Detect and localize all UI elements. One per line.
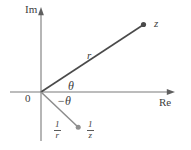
imaginary-axis-label: Im — [25, 4, 37, 15]
point-z-label: z — [154, 18, 158, 29]
origin-label: 0 — [25, 93, 31, 104]
inverse-modulus-fraction: 1 r — [54, 120, 61, 141]
inverse-modulus-denominator: r — [54, 131, 61, 140]
inverse-point-numerator: 1 — [87, 120, 94, 129]
point-one-over-z-marker — [76, 125, 81, 130]
argand-diagram-figure: Im Re 0 z r θ −θ 1 r 1 z — [0, 0, 191, 150]
inverse-point-fraction: 1 z — [87, 120, 94, 141]
inverse-point-denominator: z — [87, 131, 94, 140]
point-z-marker — [141, 22, 146, 27]
ray-to-z — [41, 25, 143, 92]
angle-negative-theta-label: −θ — [57, 95, 71, 107]
real-axis-label: Re — [159, 97, 171, 108]
argand-diagram-canvas — [0, 0, 191, 150]
modulus-r-label: r — [87, 50, 91, 61]
inverse-modulus-numerator: 1 — [54, 120, 61, 129]
imaginary-axis-arrowhead — [38, 7, 44, 15]
real-axis-arrowhead — [167, 89, 175, 95]
angle-theta-label: θ — [68, 80, 74, 92]
